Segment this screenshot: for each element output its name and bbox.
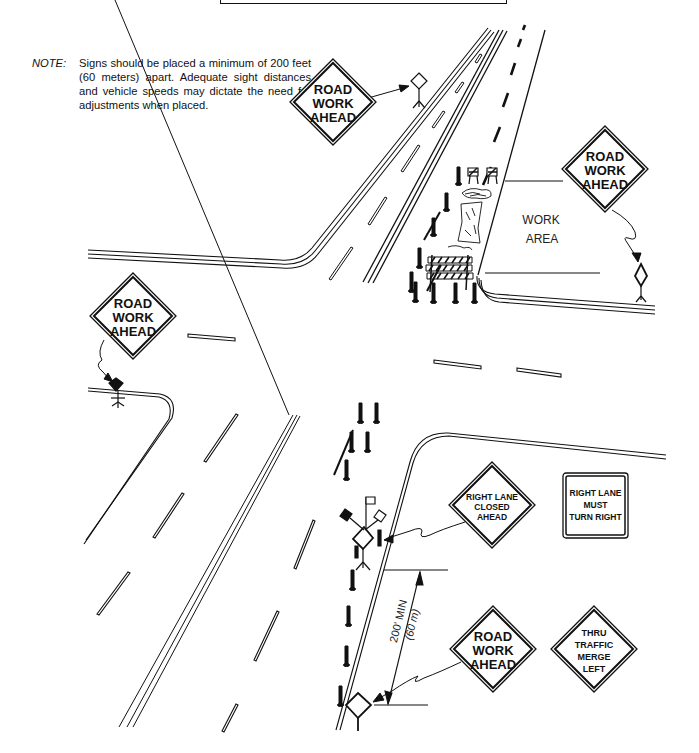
post xyxy=(358,403,364,424)
svg-text:AHEAD: AHEAD xyxy=(470,657,516,672)
dimension-arrowhead-up xyxy=(416,572,423,585)
svg-text:TRAFFIC: TRAFFIC xyxy=(575,640,614,650)
lower-road-median xyxy=(115,0,300,727)
intersection-diagram: ROAD WORK AHEAD ROAD WORK AHEAD ROAD WOR… xyxy=(0,0,699,753)
svg-text:AREA: AREA xyxy=(526,232,559,246)
cross-street-upper-right-edge xyxy=(477,276,655,314)
post xyxy=(350,570,356,591)
svg-text:AHEAD: AHEAD xyxy=(477,512,507,522)
post xyxy=(365,432,371,453)
post xyxy=(374,403,380,424)
post xyxy=(417,248,423,269)
post xyxy=(453,283,459,304)
svg-text:LEFT: LEFT xyxy=(583,664,606,674)
svg-text:MERGE: MERGE xyxy=(577,652,610,662)
post xyxy=(346,606,352,627)
svg-text:RIGHT LANE: RIGHT LANE xyxy=(570,488,622,498)
post xyxy=(344,646,350,667)
svg-text:RIGHT LANE: RIGHT LANE xyxy=(466,492,518,502)
svg-text:WORK: WORK xyxy=(584,163,626,178)
sign-stand-flagged xyxy=(340,497,386,570)
svg-text:MUST: MUST xyxy=(583,500,608,510)
svg-text:ROAD: ROAD xyxy=(314,82,352,97)
excavation-debris xyxy=(448,189,491,250)
leader-rlc xyxy=(388,522,465,538)
sign-road-work-ahead-top: ROAD WORK AHEAD xyxy=(290,59,376,145)
post xyxy=(456,167,462,186)
svg-text:CLOSED: CLOSED xyxy=(474,502,509,512)
post xyxy=(472,283,478,304)
svg-text:WORK: WORK xyxy=(522,213,559,227)
sign-road-work-ahead-bottom: ROAD WORK AHEAD xyxy=(450,606,536,692)
svg-text:AHEAD: AHEAD xyxy=(110,324,156,339)
sign-right-lane-closed-ahead: RIGHT LANE CLOSED AHEAD xyxy=(449,462,535,548)
sign-stand-right xyxy=(635,264,647,302)
svg-text:THRU: THRU xyxy=(582,628,607,638)
svg-text:ROAD: ROAD xyxy=(474,629,512,644)
sign-road-work-ahead-left: ROAD WORK AHEAD xyxy=(90,273,176,359)
sign-stand-bottom xyxy=(346,693,371,731)
lower-skip-lines-right xyxy=(222,520,315,732)
cross-street-skip-lines xyxy=(188,334,561,377)
sign-thru-traffic-merge-left: THRU TRAFFIC MERGE LEFT xyxy=(551,606,637,692)
svg-text:ROAD: ROAD xyxy=(114,296,152,311)
cross-street-lower-left-edge xyxy=(84,388,174,544)
small-barricades xyxy=(468,168,497,184)
post xyxy=(444,193,450,212)
svg-text:AHEAD: AHEAD xyxy=(310,110,356,125)
sign-road-work-ahead-right: ROAD WORK AHEAD xyxy=(562,126,648,212)
dimension-label: 200' MIN (60 m) xyxy=(387,598,423,647)
sign-right-lane-must-turn-right: RIGHT LANE MUST TURN RIGHT xyxy=(563,473,628,538)
svg-text:ROAD: ROAD xyxy=(586,149,624,164)
post xyxy=(338,686,344,707)
leader-right xyxy=(612,210,637,258)
svg-text:TURN RIGHT: TURN RIGHT xyxy=(569,512,622,522)
post xyxy=(431,283,437,304)
svg-text:WORK: WORK xyxy=(472,643,514,658)
svg-text:AHEAD: AHEAD xyxy=(582,177,628,192)
lower-skip-lines-left xyxy=(97,414,238,615)
sign-stand-upper xyxy=(408,73,428,108)
work-area-label: WORK AREA xyxy=(522,213,559,246)
post xyxy=(344,460,350,481)
svg-text:WORK: WORK xyxy=(312,96,354,111)
svg-text:WORK: WORK xyxy=(112,310,154,325)
